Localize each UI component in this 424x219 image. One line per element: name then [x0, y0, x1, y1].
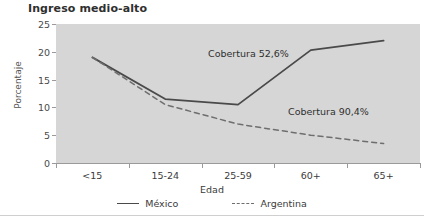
- chart-container: Ingreso medio-alto Porcentaje 0510152025…: [0, 0, 424, 219]
- series-line-argentina: [92, 57, 383, 143]
- x-axis-tick-label: 65+: [374, 170, 394, 181]
- x-axis-tick-mark: [420, 163, 421, 168]
- x-axis-tick-mark: [129, 163, 130, 168]
- x-axis-tick-label: 25-59: [224, 170, 252, 181]
- plot-area: [56, 24, 420, 163]
- legend-line-solid-icon: [117, 203, 139, 204]
- y-axis-tick-mark: [52, 135, 56, 136]
- x-axis-tick-label: 60+: [301, 170, 321, 181]
- legend-item-mexico[interactable]: México: [117, 198, 178, 209]
- chart-legend: México Argentina: [0, 198, 424, 209]
- x-axis-line: [56, 163, 420, 164]
- legend-label-mexico: México: [145, 198, 178, 209]
- x-axis-tick-mark: [274, 163, 275, 168]
- y-axis-label: Porcentaje: [13, 45, 23, 125]
- page-title: Ingreso medio-alto: [28, 2, 147, 15]
- y-axis-tick-mark: [52, 24, 56, 25]
- annotation-argentina: Cobertura 90,4%: [288, 106, 369, 117]
- legend-line-dashed-icon: [232, 203, 254, 204]
- x-axis-tick-mark: [56, 163, 57, 168]
- bottom-divider: [0, 215, 424, 216]
- x-axis-tick-label: <15: [82, 170, 102, 181]
- y-axis-tick-mark: [52, 80, 56, 81]
- x-axis-tick-label: 15-24: [151, 170, 179, 181]
- annotation-mexico: Cobertura 52,6%: [208, 48, 289, 59]
- legend-label-argentina: Argentina: [260, 198, 306, 209]
- x-axis-label: Edad: [0, 184, 424, 195]
- series-lines: [56, 24, 420, 163]
- y-axis-tick-mark: [52, 52, 56, 53]
- x-axis-tick-mark: [347, 163, 348, 168]
- y-axis-tick-mark: [52, 107, 56, 108]
- x-axis-tick-mark: [202, 163, 203, 168]
- legend-item-argentina[interactable]: Argentina: [232, 198, 306, 209]
